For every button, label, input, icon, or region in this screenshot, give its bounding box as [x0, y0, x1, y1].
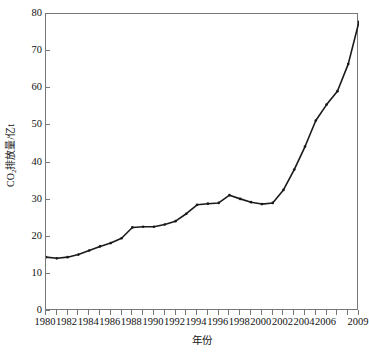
data-point-1993	[185, 212, 188, 215]
x-tick-label-2002: 2002	[272, 316, 293, 328]
x-tick-mark-2003	[293, 310, 294, 315]
y-tick-label-50: 50	[16, 119, 42, 129]
data-line-svg	[46, 14, 359, 311]
x-tick-mark-1996	[218, 310, 219, 315]
y-tick-label-30: 30	[16, 194, 42, 204]
x-tick-mark-1982	[67, 310, 68, 315]
data-point-1982	[66, 256, 69, 259]
y-tick-label-20: 20	[16, 231, 42, 241]
data-point-1992	[174, 220, 177, 223]
data-point-1994	[196, 203, 199, 206]
data-point-1989	[142, 225, 145, 228]
x-tick-mark-2006	[326, 310, 327, 315]
data-point-1998	[239, 198, 242, 201]
y-tick-mark-60	[45, 87, 50, 88]
data-point-1984	[88, 249, 91, 252]
x-tick-mark-1989	[142, 310, 143, 315]
x-tick-mark-1980	[45, 310, 46, 315]
x-axis-title: 年份	[45, 332, 358, 347]
y-tick-label-60: 60	[16, 82, 42, 92]
x-tick-mark-1986	[110, 310, 111, 315]
y-tick-label-80: 80	[16, 8, 42, 18]
y-tick-label-70: 70	[16, 45, 42, 55]
x-tick-mark-1981	[56, 310, 57, 315]
x-tick-mark-1990	[153, 310, 154, 315]
data-point-1981	[55, 257, 58, 260]
y-axis-tick-labels: 01020304050607080	[16, 0, 42, 353]
y-tick-label-0: 0	[16, 305, 42, 315]
data-point-1999	[250, 201, 253, 204]
x-tick-label-2009: 2009	[348, 316, 369, 328]
data-point-2000	[261, 203, 264, 206]
x-tick-mark-2002	[282, 310, 283, 315]
co2-emissions-line-chart: CO2排放量/亿t 01020304050607080 198019821984…	[0, 0, 369, 353]
y-tick-label-10: 10	[16, 268, 42, 278]
data-point-2001	[271, 202, 274, 205]
y-tick-mark-70	[45, 50, 50, 51]
y-axis-title-suffix: 排放量/亿t	[5, 124, 16, 170]
x-tick-mark-1984	[88, 310, 89, 315]
data-point-1983	[77, 253, 80, 256]
series-markers-co2	[46, 20, 359, 259]
x-tick-label-2006: 2006	[315, 316, 336, 328]
x-tick-label-2004: 2004	[294, 316, 315, 328]
x-tick-mark-2001	[272, 310, 273, 315]
x-tick-mark-1988	[131, 310, 132, 315]
y-tick-mark-50	[45, 124, 50, 125]
data-point-1980	[46, 256, 47, 259]
x-tick-mark-2004	[304, 310, 305, 315]
x-tick-mark-1985	[99, 310, 100, 315]
x-tick-label-2000: 2000	[250, 316, 271, 328]
x-tick-label-1988: 1988	[121, 316, 142, 328]
data-point-2002	[282, 189, 285, 192]
x-tick-mark-1994	[196, 310, 197, 315]
x-tick-label-1998: 1998	[229, 316, 250, 328]
x-tick-label-1986: 1986	[99, 316, 120, 328]
x-tick-label-1990: 1990	[142, 316, 163, 328]
x-tick-mark-1998	[239, 310, 240, 315]
x-tick-mark-1987	[121, 310, 122, 315]
data-point-1990	[153, 225, 156, 228]
x-tick-mark-1999	[250, 310, 251, 315]
data-point-1991	[163, 223, 166, 226]
x-tick-label-1982: 1982	[56, 316, 77, 328]
data-point-2006	[325, 103, 328, 106]
data-point-2003	[293, 168, 296, 171]
x-tick-mark-2005	[315, 310, 316, 315]
x-tick-label-1980: 1980	[35, 316, 56, 328]
data-point-1988	[131, 226, 134, 229]
data-point-1997	[228, 194, 231, 197]
y-tick-label-40: 40	[16, 157, 42, 167]
data-point-1987	[120, 237, 123, 240]
data-point-1986	[109, 242, 112, 245]
x-tick-label-1984: 1984	[78, 316, 99, 328]
data-point-2008	[347, 63, 350, 66]
x-tick-mark-1983	[77, 310, 78, 315]
x-tick-mark-1995	[207, 310, 208, 315]
x-tick-mark-1997	[228, 310, 229, 315]
x-tick-label-1996: 1996	[207, 316, 228, 328]
series-line-co2	[46, 22, 359, 258]
y-tick-mark-20	[45, 236, 50, 237]
data-point-1995	[207, 202, 210, 205]
data-point-2004	[304, 145, 307, 148]
x-tick-mark-1993	[185, 310, 186, 315]
y-tick-mark-80	[45, 13, 50, 14]
data-point-2007	[336, 90, 339, 93]
y-tick-mark-10	[45, 273, 50, 274]
x-axis-tick-labels: 1980198219841986198819901992199419961998…	[0, 316, 369, 332]
data-point-1985	[99, 245, 102, 248]
x-tick-mark-2008	[347, 310, 348, 315]
x-tick-label-1992: 1992	[164, 316, 185, 328]
y-tick-mark-40	[45, 162, 50, 163]
x-tick-mark-2000	[261, 310, 262, 315]
x-tick-mark-1991	[164, 310, 165, 315]
y-tick-mark-30	[45, 199, 50, 200]
data-point-1996	[217, 202, 220, 205]
data-point-2005	[314, 119, 317, 122]
data-point-2009	[358, 20, 359, 23]
y-axis-title-text: CO2排放量/亿t	[2, 124, 17, 187]
plot-area	[45, 13, 358, 310]
x-tick-mark-1992	[175, 310, 176, 315]
x-tick-mark-2007	[336, 310, 337, 315]
